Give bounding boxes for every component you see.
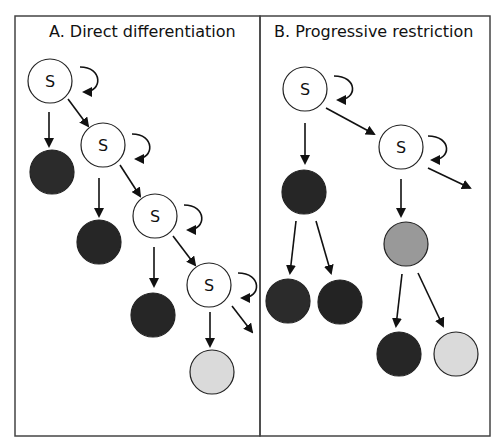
stem-label: S bbox=[396, 138, 406, 157]
differentiation-arrow bbox=[396, 274, 402, 326]
dark-progenitor-cell bbox=[282, 170, 326, 214]
stem-label: S bbox=[45, 72, 55, 91]
differentiation-arrow bbox=[316, 221, 331, 273]
division-arrow bbox=[428, 168, 470, 188]
dark-differentiated-cell bbox=[377, 332, 421, 376]
dark-differentiated-cell bbox=[266, 279, 310, 323]
self-renew-arrow bbox=[238, 273, 257, 298]
light-differentiated-cell bbox=[434, 332, 478, 376]
division-arrow bbox=[326, 108, 374, 134]
dark-differentiated-cell bbox=[30, 150, 74, 194]
dark-differentiated-cell bbox=[131, 293, 175, 337]
stem-label: S bbox=[204, 276, 214, 295]
division-arrow bbox=[120, 165, 140, 196]
stem-label: S bbox=[150, 207, 160, 226]
division-arrow bbox=[173, 236, 195, 265]
differentiation-arrow bbox=[418, 273, 443, 326]
diagram-canvas: S S S S S S bbox=[0, 0, 501, 447]
light-differentiated-cell bbox=[190, 350, 234, 394]
stem-label: S bbox=[300, 80, 310, 99]
dark-differentiated-cell bbox=[77, 220, 121, 264]
division-arrow bbox=[68, 99, 88, 126]
differentiation-arrow bbox=[290, 221, 296, 273]
stem-label: S bbox=[98, 136, 108, 155]
self-renew-arrow bbox=[334, 76, 353, 100]
self-renew-arrow bbox=[80, 67, 98, 92]
dark-differentiated-cell bbox=[318, 280, 362, 324]
division-arrow bbox=[232, 306, 252, 332]
medium-progenitor-cell bbox=[384, 222, 428, 266]
self-renew-arrow bbox=[184, 205, 202, 230]
self-renew-arrow bbox=[428, 136, 447, 160]
self-renew-arrow bbox=[132, 134, 150, 159]
